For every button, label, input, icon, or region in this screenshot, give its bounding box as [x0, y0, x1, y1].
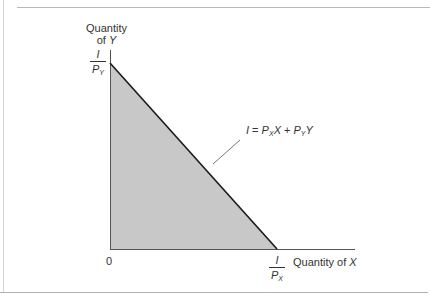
eq-equals: = [249, 124, 262, 136]
x-axis-label-var: X [349, 256, 356, 268]
x-intercept-subscript: X [278, 275, 283, 282]
eq-term1-coef: P [262, 124, 269, 136]
y-intercept-denominator: PY [92, 63, 104, 79]
y-axis-label: Quantity of Y [86, 22, 127, 46]
y-axis-label-var: Y [109, 34, 116, 46]
fraction-bar [269, 267, 285, 268]
y-intercept-numerator: I [96, 49, 99, 60]
fraction-bar [90, 61, 106, 62]
eq-term2-var: Y [306, 124, 313, 136]
x-intercept-label: I PX [269, 255, 285, 285]
eq-plus: + [281, 124, 294, 136]
x-axis-label: Quantity of X [293, 256, 357, 268]
y-axis-label-prefix: of [97, 34, 109, 46]
eq-term2-coef: P [294, 124, 301, 136]
x-intercept-numerator: I [275, 255, 278, 266]
equation-pointer-line [213, 140, 240, 164]
y-intercept-subscript: Y [99, 69, 104, 76]
budget-line-equation: I = PXX + PYY [246, 124, 313, 140]
y-axis-label-line2: of Y [86, 34, 127, 46]
x-axis-label-prefix: Quantity of [293, 256, 349, 268]
y-intercept-label: I PY [90, 49, 106, 79]
y-axis-label-line1: Quantity [86, 22, 127, 34]
origin-label: 0 [106, 255, 112, 267]
budget-constraint-plot [0, 0, 430, 302]
eq-term1-var: X [274, 124, 281, 136]
x-intercept-denominator: PX [271, 269, 283, 285]
